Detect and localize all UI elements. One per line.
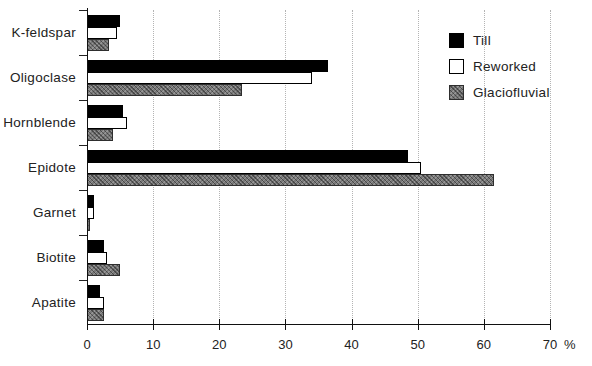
- y-axis-tick: [79, 190, 87, 191]
- x-tick-label-60: 60: [462, 337, 506, 352]
- y-axis-tick: [79, 10, 87, 11]
- x-axis-tick-0: [87, 319, 88, 330]
- gridline-70: [550, 10, 551, 320]
- x-axis-unit-label: %: [564, 337, 576, 352]
- x-tick-label-40: 40: [330, 337, 374, 352]
- x-axis-tick-50: [418, 319, 419, 330]
- y-axis-tick: [79, 280, 87, 281]
- category-label: K-feldspar: [0, 26, 76, 40]
- bar-till-oligoclase: [87, 60, 328, 72]
- bar-till-apatite: [87, 285, 100, 297]
- x-tick-label-20: 20: [197, 337, 241, 352]
- bar-till-biotite: [87, 240, 104, 252]
- x-axis-tick-40: [352, 319, 353, 330]
- legend-label: Till: [473, 33, 491, 48]
- bar-chart: K-feldsparOligoclaseHornblendeEpidoteGar…: [0, 0, 592, 366]
- x-axis-tick-10: [153, 319, 154, 330]
- bar-reworked-k-feldspar: [87, 27, 117, 39]
- legend-swatch-till: [449, 33, 464, 48]
- bar-till-hornblende: [87, 105, 123, 117]
- legend-item-glaciofluvial: Glaciofluvial: [449, 84, 550, 100]
- legend-swatch-glaciofluvial: [449, 85, 464, 100]
- category-label: Oligoclase: [0, 71, 76, 85]
- legend-item-till: Till: [449, 32, 550, 48]
- y-axis-tick: [79, 100, 87, 101]
- bar-glaciofluvial-biotite: [87, 264, 120, 276]
- bar-glaciofluvial-apatite: [87, 309, 104, 321]
- x-tick-label-0: 0: [65, 337, 109, 352]
- y-axis-tick: [79, 55, 87, 56]
- bar-reworked-hornblende: [87, 117, 127, 129]
- bar-glaciofluvial-epidote: [87, 174, 494, 186]
- bar-glaciofluvial-k-feldspar: [87, 39, 109, 51]
- bar-till-epidote: [87, 150, 408, 162]
- bar-till-k-feldspar: [87, 15, 120, 27]
- category-label: Apatite: [0, 296, 76, 310]
- legend-label: Glaciofluvial: [473, 85, 550, 100]
- y-axis-tick: [79, 145, 87, 146]
- x-axis-tick-30: [285, 319, 286, 330]
- x-tick-label-30: 30: [263, 337, 307, 352]
- legend-item-reworked: Reworked: [449, 58, 550, 74]
- bar-reworked-biotite: [87, 252, 107, 264]
- bar-reworked-oligoclase: [87, 72, 312, 84]
- x-tick-label-50: 50: [396, 337, 440, 352]
- bar-glaciofluvial-hornblende: [87, 129, 113, 141]
- x-axis-tick-20: [219, 319, 220, 330]
- y-axis-tick: [79, 235, 87, 236]
- bar-glaciofluvial-oligoclase: [87, 84, 242, 96]
- legend-swatch-reworked: [449, 59, 464, 74]
- y-axis: [87, 8, 88, 324]
- category-label: Garnet: [0, 206, 76, 220]
- category-label: Biotite: [0, 251, 76, 265]
- x-axis-tick-70: [550, 319, 551, 330]
- x-axis: [87, 324, 551, 325]
- bar-reworked-apatite: [87, 297, 104, 309]
- x-axis-tick-60: [484, 319, 485, 330]
- category-label: Epidote: [0, 161, 76, 175]
- legend-label: Reworked: [473, 59, 536, 74]
- bar-reworked-epidote: [87, 162, 421, 174]
- legend: TillReworkedGlaciofluvial: [449, 32, 550, 110]
- category-label: Hornblende: [0, 116, 76, 130]
- x-tick-label-10: 10: [131, 337, 175, 352]
